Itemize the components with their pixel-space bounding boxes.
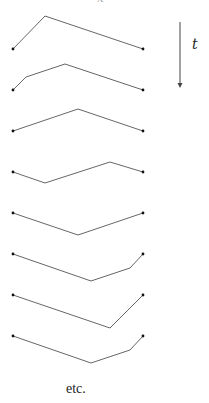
- end-point: [142, 253, 145, 256]
- path-7: [13, 295, 143, 328]
- path-2: [13, 64, 143, 90]
- etc-label: etc.: [66, 381, 86, 397]
- path-6: [13, 254, 143, 281]
- arrow-down-icon: [178, 83, 183, 88]
- start-point: [12, 48, 15, 51]
- start-point: [12, 253, 15, 256]
- end-point: [142, 212, 145, 215]
- path-1: [13, 16, 143, 49]
- path-5: [13, 213, 143, 235]
- path-8: [13, 336, 143, 363]
- start-point: [12, 212, 15, 215]
- time-label: t: [192, 36, 198, 52]
- end-point: [142, 130, 145, 133]
- end-point: [142, 48, 145, 51]
- end-point: [142, 89, 145, 92]
- start-point: [12, 171, 15, 174]
- path-sequence-diagram: [0, 0, 209, 403]
- start-point: [12, 335, 15, 338]
- path-3: [13, 109, 143, 131]
- path-4: [13, 162, 143, 183]
- start-point: [12, 89, 15, 92]
- start-point: [12, 130, 15, 133]
- end-point: [142, 171, 145, 174]
- start-point: [12, 294, 15, 297]
- end-point: [142, 294, 145, 297]
- end-point: [142, 335, 145, 338]
- time-arrow: [178, 22, 183, 88]
- path-group: [12, 16, 145, 363]
